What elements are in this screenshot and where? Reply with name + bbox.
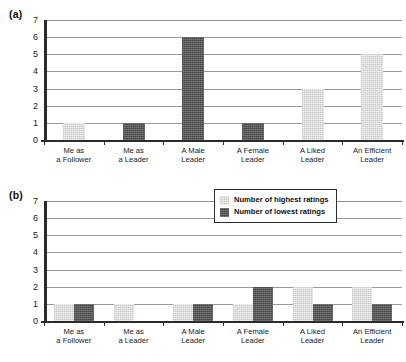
- legend-label-lowest: Number of lowest ratings: [234, 208, 325, 216]
- bar-a-3-number-of-lowest-ratings: [242, 123, 264, 140]
- category-label-4: A LikedLeader: [283, 146, 343, 165]
- y-tick-label-4: 4: [33, 67, 38, 76]
- category-label-3: A FemaleLeader: [223, 327, 283, 346]
- category-label-line1: A Female: [223, 327, 283, 336]
- category-label-line1: An Efficient: [342, 146, 402, 155]
- category-label-1: Me asa Leader: [104, 327, 164, 346]
- y-tick-label-5: 5: [33, 231, 38, 240]
- category-label-line1: A Male: [163, 146, 223, 155]
- bar-a-2-number-of-lowest-ratings: [182, 37, 204, 140]
- category-label-line2: a Follower: [44, 336, 104, 345]
- x-axis-line-b: [41, 321, 404, 323]
- y-tick-label-2: 2: [33, 282, 38, 291]
- y-tick-label-0: 0: [33, 317, 38, 326]
- bar-a-1-number-of-lowest-ratings: [123, 123, 145, 140]
- category-label-line2: Leader: [283, 336, 343, 345]
- legend-swatch-lowest: [220, 208, 229, 217]
- category-label-line1: A Female: [223, 146, 283, 155]
- category-label-line2: a Follower: [44, 155, 104, 164]
- panel-label-a: (a): [9, 8, 22, 20]
- y-tick-label-6: 6: [33, 214, 38, 223]
- category-label-line2: Leader: [223, 155, 283, 164]
- legend-item-lowest: Number of lowest ratings: [220, 206, 329, 218]
- category-label-line2: a Leader: [104, 336, 164, 345]
- bar-b-2-number-of-lowest-ratings: [193, 304, 213, 321]
- bar-b-2-number-of-highest-ratings: [173, 304, 193, 321]
- category-label-line2: Leader: [163, 336, 223, 345]
- y-tick-label-7: 7: [33, 16, 38, 25]
- bar-b-0-number-of-lowest-ratings: [74, 304, 94, 321]
- category-label-5: An EfficientLeader: [342, 146, 402, 165]
- bar-b-3-number-of-highest-ratings: [233, 304, 253, 321]
- category-label-line2: Leader: [342, 155, 402, 164]
- category-label-line1: A Liked: [283, 146, 343, 155]
- category-label-0: Me asa Follower: [44, 327, 104, 346]
- y-tick-label-3: 3: [33, 265, 38, 274]
- category-label-3: A FemaleLeader: [223, 146, 283, 165]
- category-label-2: A MaleLeader: [163, 146, 223, 165]
- category-label-line2: Leader: [283, 155, 343, 164]
- legend-swatch-highest: [220, 196, 229, 205]
- category-label-5: An EfficientLeader: [342, 327, 402, 346]
- category-label-line2: a Leader: [104, 155, 164, 164]
- category-label-line1: Me as: [104, 327, 164, 336]
- bar-a-5-number-of-highest-ratings: [361, 54, 383, 140]
- y-tick-label-2: 2: [33, 101, 38, 110]
- bar-a-4-number-of-highest-ratings: [302, 89, 324, 140]
- y-tick-label-1: 1: [33, 118, 38, 127]
- category-label-1: Me asa Leader: [104, 146, 164, 165]
- bars-a: [44, 20, 402, 140]
- category-label-line1: An Efficient: [342, 327, 402, 336]
- chart-legend: Number of highest ratingsNumber of lowes…: [214, 189, 337, 223]
- category-label-4: A LikedLeader: [283, 327, 343, 346]
- bar-a-0-number-of-highest-ratings: [63, 123, 85, 140]
- category-label-line2: Leader: [342, 336, 402, 345]
- category-label-line2: Leader: [223, 336, 283, 345]
- x-axis-line-a: [41, 140, 404, 142]
- legend-label-highest: Number of highest ratings: [234, 196, 329, 204]
- legend-item-highest: Number of highest ratings: [220, 194, 329, 206]
- category-label-line1: Me as: [44, 327, 104, 336]
- category-label-0: Me asa Follower: [44, 146, 104, 165]
- bar-b-4-number-of-highest-ratings: [293, 287, 313, 321]
- bar-b-5-number-of-lowest-ratings: [372, 304, 392, 321]
- category-label-line1: Me as: [104, 146, 164, 155]
- y-tick-label-6: 6: [33, 33, 38, 42]
- y-axis-line-a: [44, 20, 47, 140]
- category-label-2: A MaleLeader: [163, 327, 223, 346]
- panel-label-b: (b): [9, 189, 23, 201]
- y-tick-label-1: 1: [33, 299, 38, 308]
- category-label-line1: Me as: [44, 146, 104, 155]
- y-tick-label-3: 3: [33, 84, 38, 93]
- category-label-line2: Leader: [163, 155, 223, 164]
- bar-b-5-number-of-highest-ratings: [352, 287, 372, 321]
- y-tick-label-4: 4: [33, 248, 38, 257]
- y-tick-label-5: 5: [33, 50, 38, 59]
- y-tick-label-7: 7: [33, 197, 38, 206]
- bar-b-4-number-of-lowest-ratings: [313, 304, 333, 321]
- chart-panel-a: (a) 01234567 Me asa FollowerMe asa Leade…: [0, 0, 406, 181]
- y-axis-line-b: [44, 201, 47, 321]
- bar-b-0-number-of-highest-ratings: [54, 304, 74, 321]
- bar-b-1-number-of-highest-ratings: [114, 304, 134, 321]
- plot-area-a: 01234567: [44, 20, 402, 140]
- y-tick-label-0: 0: [33, 136, 38, 145]
- category-label-line1: A Liked: [283, 327, 343, 336]
- bar-b-3-number-of-lowest-ratings: [253, 287, 273, 321]
- category-label-line1: A Male: [163, 327, 223, 336]
- chart-panel-b: (b) 01234567 Number of highest ratingsNu…: [0, 181, 406, 362]
